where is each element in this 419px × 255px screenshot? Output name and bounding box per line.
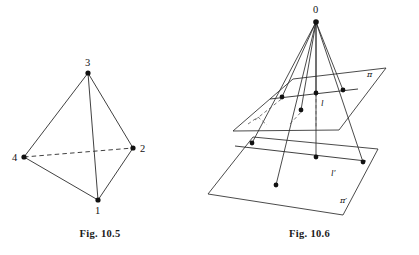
vertex-label-1: 1: [95, 205, 100, 216]
point-lower-4: [274, 183, 279, 188]
edge-3-4: [24, 73, 88, 157]
label-plane-pi-prime: π′: [339, 196, 347, 205]
figure-10-6: 0 π π′ l l′ Fig. 10.6: [200, 0, 419, 255]
tetrahedron-hidden-edges: [24, 148, 133, 157]
edge-2-1: [98, 148, 133, 200]
apex-group: 0: [313, 4, 319, 25]
figure-10-5-caption: Fig. 10.5: [0, 228, 200, 239]
plane-pi-prime: [208, 137, 378, 215]
edge-4-1: [24, 157, 98, 200]
label-line-l-prime: l′: [331, 168, 337, 178]
point-upper-4: [299, 108, 304, 113]
lower-plane-outline: [208, 137, 378, 215]
tetrahedron-solid-edges: [24, 73, 133, 200]
vertex-dot-3: [85, 70, 90, 75]
vertex-label-4: 4: [12, 152, 18, 163]
point-upper-1: [280, 95, 285, 100]
vertex-label-2: 2: [140, 143, 145, 154]
line-l-prime: [235, 146, 366, 161]
figure-10-5: 3 2 4 1 Fig. 10.5: [0, 0, 200, 255]
plane-pi: [233, 68, 386, 131]
point-lower-2: [314, 155, 319, 160]
tetrahedron-vertices: [21, 70, 135, 202]
vertex-label-3: 3: [85, 57, 90, 68]
apex-dot-o: [313, 19, 319, 25]
upper-plane-outline: [233, 68, 386, 131]
figure-sheet: 3 2 4 1 Fig. 10.5: [0, 0, 419, 255]
tetrahedron-vertex-labels: 3 2 4 1: [12, 57, 145, 216]
point-lower-1: [250, 141, 255, 146]
point-upper-2: [314, 91, 319, 96]
edge-3-1: [88, 73, 98, 200]
lower-plane-points: [250, 141, 366, 188]
apex-label-o: 0: [313, 4, 318, 15]
point-lower-3: [361, 160, 366, 165]
edge-4-2-hidden: [24, 148, 133, 157]
tetrahedron-diagram: 3 2 4 1: [0, 0, 200, 228]
point-upper-3: [341, 88, 346, 93]
figure-10-6-caption: Fig. 10.6: [200, 228, 419, 239]
edge-3-2: [88, 73, 133, 148]
projection-diagram: 0 π π′ l l′: [200, 0, 419, 228]
vertex-dot-4: [21, 154, 26, 159]
vertex-dot-2: [130, 145, 135, 150]
lower-line-group: [235, 146, 366, 161]
label-plane-pi: π: [366, 70, 373, 79]
vertex-dot-1: [95, 197, 100, 202]
